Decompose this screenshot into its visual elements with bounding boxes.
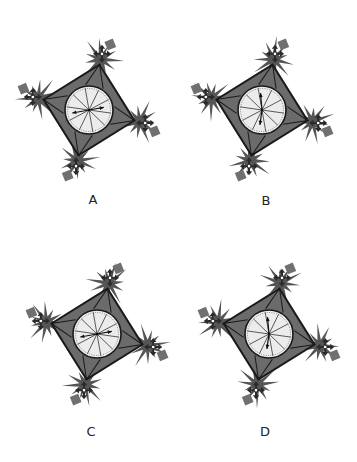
panel-label-c: C <box>86 424 95 439</box>
panel-label-d: D <box>260 424 270 439</box>
diagram-panel-a <box>8 29 170 192</box>
block-icon <box>329 349 341 361</box>
diagram-panel-b <box>181 28 343 190</box>
clock-dial <box>73 310 121 358</box>
block-icon <box>235 170 247 182</box>
panel-label-b: B <box>262 193 271 208</box>
block-icon <box>149 125 161 137</box>
block-icon <box>70 394 82 406</box>
block-icon <box>198 307 210 319</box>
clock-dial <box>245 310 293 358</box>
clock-dial <box>238 86 286 134</box>
block-icon <box>242 394 254 406</box>
diagram-panel-d <box>187 253 351 416</box>
block-icon <box>322 125 334 137</box>
block-icon <box>191 83 203 95</box>
panel-label-a: A <box>89 192 98 207</box>
diagram-canvas <box>0 0 357 462</box>
block-icon <box>277 39 289 51</box>
clock-dial <box>65 86 113 134</box>
diagram-panel-c <box>15 252 178 415</box>
